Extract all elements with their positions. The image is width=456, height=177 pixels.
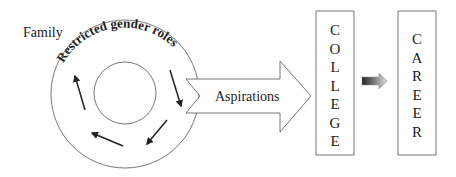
career-letter: E — [412, 105, 421, 121]
college-letter: C — [330, 22, 340, 38]
inner-circle — [94, 62, 156, 124]
college-letter: O — [330, 41, 341, 57]
college-letters: COLLEGE — [330, 22, 341, 149]
cycle-arrow-down-right — [170, 70, 181, 106]
family-label: Family — [23, 25, 63, 40]
college-letter: L — [330, 59, 339, 75]
career-letter: E — [412, 87, 421, 103]
cycle-arrow-down-left — [147, 120, 167, 144]
restricted-gender-roles-label: Restricted gender roles — [53, 15, 181, 64]
college-letter: E — [330, 96, 339, 112]
career-letter: A — [412, 50, 423, 66]
career-letter: R — [412, 68, 422, 84]
cycle-arrow-left — [92, 133, 123, 146]
diagram-canvas: Family Restricted gender roles Aspiratio… — [0, 0, 456, 177]
college-letter: G — [330, 115, 341, 131]
college-letter: E — [330, 133, 339, 149]
college-to-career-arrow — [362, 73, 387, 89]
aspirations-label: Aspirations — [215, 89, 280, 104]
cycle-arrow-up — [75, 76, 85, 110]
career-letter: R — [412, 124, 422, 140]
career-letter: C — [412, 31, 422, 47]
college-letter: L — [330, 78, 339, 94]
